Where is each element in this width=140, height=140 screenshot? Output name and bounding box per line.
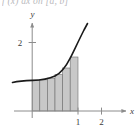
riemann-rect — [47, 78, 55, 111]
riemann-rectangles — [32, 57, 78, 111]
x-axis-label: x — [129, 106, 134, 116]
riemann-sum-figure: f (x) dx on [a, b] y x 2 — [0, 0, 140, 140]
y-axis-label: y — [30, 9, 35, 19]
x-tick-label-2: 2 — [99, 117, 104, 127]
y-tick-label-2: 2 — [18, 38, 23, 48]
riemann-rect — [55, 75, 63, 111]
x-tick-label-1: 1 — [76, 117, 81, 127]
riemann-rect — [40, 80, 48, 111]
riemann-rect — [63, 68, 71, 111]
plot-canvas: y x 2 1 2 — [0, 0, 140, 140]
riemann-rect — [70, 57, 78, 111]
riemann-rect — [32, 81, 40, 112]
